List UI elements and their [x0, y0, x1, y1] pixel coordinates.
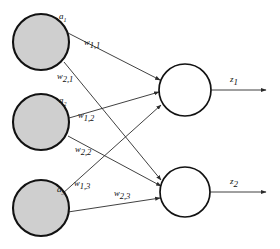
neural-network-figure: a1 a2 a3 w1,1 w2,1 w1,2 w2,2 w: [0, 0, 280, 249]
label-w13: w1,3: [74, 178, 90, 191]
edge-w23: [68, 198, 160, 212]
network-canvas: a1 a2 a3 w1,1 w2,1 w1,2 w2,2 w: [0, 0, 280, 249]
edge-w21: [64, 62, 161, 180]
input-node-a1[interactable]: [13, 14, 69, 70]
label-a3: a3: [57, 184, 65, 196]
label-w22: w2,2: [75, 144, 92, 157]
edge-w22: [68, 136, 161, 186]
output-arrows: [210, 90, 266, 192]
label-z2: z2: [229, 176, 239, 189]
output-node-z2[interactable]: [160, 167, 210, 217]
label-z1: z1: [229, 74, 238, 87]
label-a1: a1: [59, 11, 67, 23]
output-labels: z1 z2: [229, 74, 239, 189]
label-w12: w1,2: [78, 110, 95, 123]
label-w21: w2,1: [57, 71, 73, 84]
label-a2: a2: [59, 95, 67, 107]
label-w11: w1,1: [84, 37, 100, 50]
edge-w11: [68, 33, 160, 80]
output-layer: [159, 64, 211, 217]
output-node-z1[interactable]: [159, 64, 211, 116]
input-layer: [13, 14, 69, 236]
label-w23: w2,3: [114, 188, 130, 201]
